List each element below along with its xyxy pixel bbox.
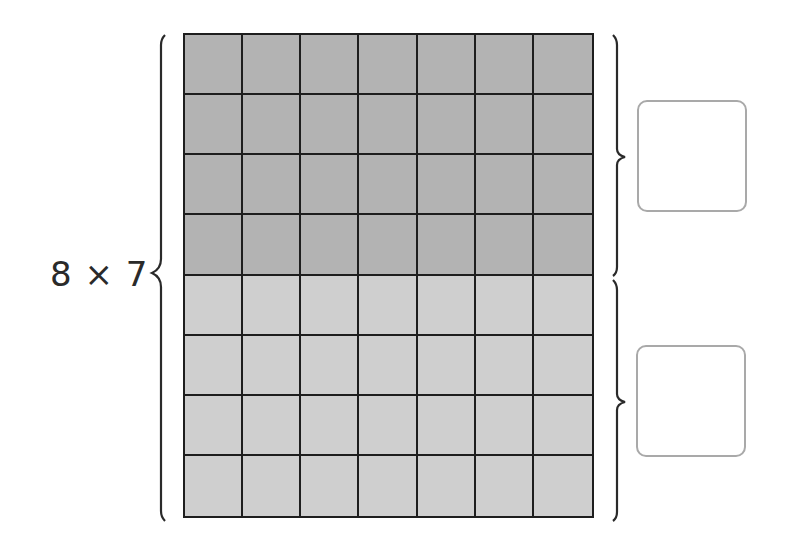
left-brace-icon xyxy=(148,33,178,523)
answer-box-top[interactable] xyxy=(637,100,747,212)
grid-cell xyxy=(534,155,592,215)
grid-cell xyxy=(359,396,417,456)
grid-cell xyxy=(301,336,359,396)
grid-cell xyxy=(301,456,359,516)
grid-cell xyxy=(476,276,534,336)
grid-cell xyxy=(418,35,476,95)
grid-cell xyxy=(185,215,243,275)
grid-cell xyxy=(418,396,476,456)
grid-cell xyxy=(476,456,534,516)
grid-cell xyxy=(476,95,534,155)
grid-cell xyxy=(476,155,534,215)
grid-cell xyxy=(243,396,301,456)
grid-cell xyxy=(185,95,243,155)
grid-cell xyxy=(243,35,301,95)
grid-cell xyxy=(534,396,592,456)
grid-cell xyxy=(243,155,301,215)
grid-cell xyxy=(418,456,476,516)
grid-cell xyxy=(301,396,359,456)
grid-cell xyxy=(359,336,417,396)
grid-cell xyxy=(185,396,243,456)
grid-cell xyxy=(359,215,417,275)
grid-cell xyxy=(476,396,534,456)
grid-cell xyxy=(243,215,301,275)
grid-cell xyxy=(534,35,592,95)
grid-cell xyxy=(185,155,243,215)
grid-cell xyxy=(301,35,359,95)
grid-cell xyxy=(185,35,243,95)
grid-cell xyxy=(301,215,359,275)
grid-cell xyxy=(359,155,417,215)
grid-cell xyxy=(476,215,534,275)
multiplication-expression: 8 × 7 xyxy=(50,254,148,294)
grid-cell xyxy=(534,276,592,336)
grid-cell xyxy=(476,336,534,396)
grid-cell xyxy=(359,35,417,95)
grid-cell xyxy=(418,336,476,396)
grid-cell xyxy=(534,95,592,155)
grid-cell xyxy=(476,35,534,95)
grid-cell xyxy=(301,276,359,336)
grid-cell xyxy=(418,215,476,275)
grid-cell xyxy=(243,456,301,516)
grid-cell xyxy=(185,456,243,516)
right-brace-top-icon xyxy=(607,33,637,278)
grid-cell xyxy=(185,276,243,336)
grid-cell xyxy=(301,95,359,155)
grid-cell xyxy=(243,336,301,396)
right-brace-bottom-icon xyxy=(607,278,637,523)
grid-cell xyxy=(359,276,417,336)
grid-cell xyxy=(185,336,243,396)
grid-cell xyxy=(534,456,592,516)
grid-cell xyxy=(418,155,476,215)
grid-cell xyxy=(418,276,476,336)
grid-cell xyxy=(418,95,476,155)
grid-cell xyxy=(359,456,417,516)
answer-box-bottom[interactable] xyxy=(636,345,746,457)
grid-cell xyxy=(243,95,301,155)
grid-cell xyxy=(359,95,417,155)
grid-cell xyxy=(534,336,592,396)
grid-cell xyxy=(243,276,301,336)
grid-cell xyxy=(534,215,592,275)
grid-cell xyxy=(301,155,359,215)
array-grid xyxy=(183,33,594,518)
